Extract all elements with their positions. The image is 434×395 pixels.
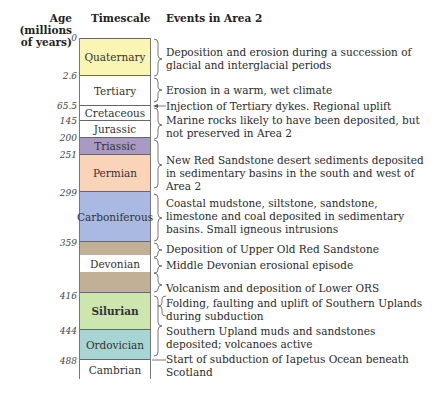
arrow-head-icon xyxy=(153,104,158,108)
event-lower-ors: Volcanism and deposition of Lower ORS xyxy=(166,282,431,295)
event-tertiary: Erosion in a warm, wet climate xyxy=(166,84,431,97)
brace-icon xyxy=(154,78,162,102)
event-folding: Folding, faulting and uplift of Southern… xyxy=(166,297,431,323)
event-southern-upland: Southern Upland muds and sandstones depo… xyxy=(166,325,431,351)
event-quaternary: Deposition and erosion during a successi… xyxy=(166,46,431,72)
brace-icon xyxy=(154,243,162,257)
brace-icon xyxy=(154,140,162,188)
brace-icon xyxy=(154,273,162,292)
brace-icon xyxy=(154,258,162,273)
event-new-red-sandstone: New Red Sandstone desert sediments depos… xyxy=(166,154,431,193)
brace-icon xyxy=(154,108,162,139)
brace-icon xyxy=(154,39,162,76)
event-middle-devonian: Middle Devonian erosional episode xyxy=(166,259,431,272)
event-upper-ors: Deposition of Upper Old Red Sandstone xyxy=(166,243,431,256)
event-tertiary-dykes: Injection of Tertiary dykes. Regional up… xyxy=(166,100,431,113)
event-iapetus: Start of subduction of Iapetus Ocean ben… xyxy=(166,353,431,379)
brace-icon xyxy=(158,296,166,316)
brace-icon xyxy=(154,194,162,241)
event-carboniferous: Coastal mudstone, siltstone, sandstone, … xyxy=(166,197,431,236)
event-marine-rocks: Marine rocks likely to have been deposit… xyxy=(166,114,431,140)
